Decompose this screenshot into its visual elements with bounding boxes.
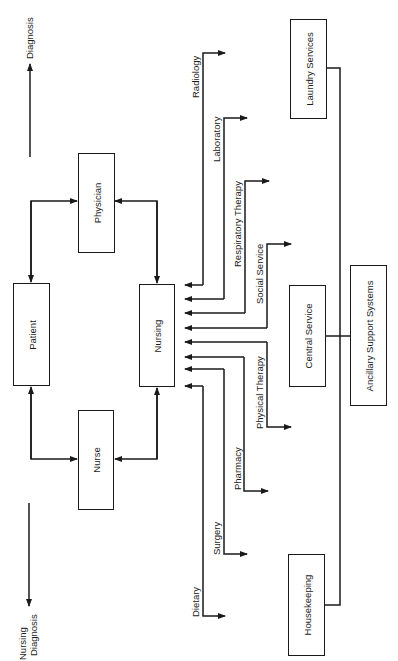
physician-box: Physician — [78, 153, 115, 253]
nursing-system-diagram: Physician Patient Nursing Nurse Central … — [0, 0, 398, 661]
connector-lines — [0, 0, 398, 661]
housekeeping-label: Housekeeping — [301, 575, 312, 636]
patient-label: Patient — [26, 320, 37, 350]
department-label-pharmacy: Pharmacy — [232, 447, 243, 490]
nursing-diagnosis-label-line1: Nursing — [17, 627, 28, 660]
patient-box: Patient — [13, 283, 50, 386]
department-label-social-service: Social Service — [254, 244, 265, 304]
laundry-services-label: Laundry Services — [303, 32, 314, 105]
central-service-label: Central Service — [302, 304, 313, 369]
nursing-label: Nursing — [152, 319, 163, 352]
ancillary-support-label: Ancillary Support Systems — [363, 280, 374, 391]
nurse-label: Nurse — [91, 447, 102, 472]
physician-label: Physician — [91, 183, 102, 224]
department-label-physical-therapy: Physical Therapy — [254, 356, 265, 429]
ancillary-support-box: Ancillary Support Systems — [350, 265, 387, 406]
nurse-box: Nurse — [78, 410, 114, 510]
department-label-respiratory-therapy: Respiratory Therapy — [232, 181, 243, 267]
housekeeping-box: Housekeeping — [288, 554, 325, 656]
diagnosis-label: Diagnosis — [24, 17, 35, 59]
nursing-diagnosis-label-line2: Diagnosis — [28, 614, 39, 656]
department-label-radiology: Radiology — [190, 56, 201, 98]
department-label-dietary: Dietary — [190, 587, 201, 617]
department-label-laboratory: Laboratory — [211, 117, 222, 162]
laundry-services-box: Laundry Services — [290, 19, 327, 119]
department-label-surgery: Surgery — [211, 522, 222, 555]
nursing-box: Nursing — [139, 284, 175, 387]
central-service-box: Central Service — [289, 285, 326, 387]
